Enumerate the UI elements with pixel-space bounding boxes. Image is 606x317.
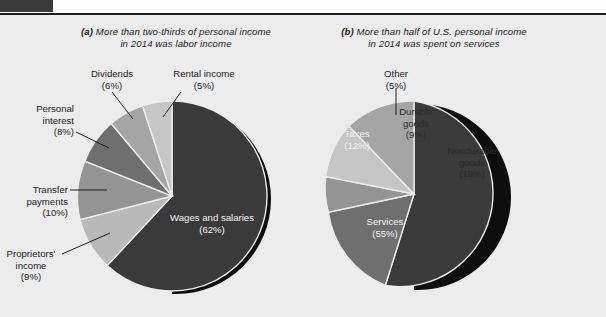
panel-b-title-line1: More than half of U.S. personal income xyxy=(357,26,527,37)
label-services[interactable]: Services (55%) xyxy=(340,216,430,239)
pie-a-slices xyxy=(77,101,266,291)
label-personal-interest-l2: interest xyxy=(0,115,74,127)
label-other-name: Other xyxy=(352,68,440,80)
panel-a-title-line2: in 2014 was labor income xyxy=(120,38,231,49)
panel-b-title-prefix: (b) xyxy=(341,26,354,37)
panel-b-title: (b) More than half of U.S. personal inco… xyxy=(316,26,552,50)
label-proprietors-income[interactable]: Proprietors' income (9%) xyxy=(0,248,62,283)
label-transfer-payments[interactable]: Transfer payments (10%) xyxy=(0,184,68,219)
label-wages-and-salaries[interactable]: Wages and salaries (62%) xyxy=(152,212,272,235)
label-taxes[interactable]: Taxes (12%) xyxy=(326,128,388,151)
panel-a-title-line1: More than two-thirds of personal income xyxy=(96,26,271,37)
panel-a-title: (a) More than two-thirds of personal inc… xyxy=(58,26,294,50)
label-proprietors-income-l2: income xyxy=(0,260,62,272)
label-durable-goods-l2: goods xyxy=(376,118,456,130)
label-wages-and-salaries-name: Wages and salaries xyxy=(152,212,272,224)
label-rental-income-pct: (5%) xyxy=(148,80,260,92)
label-transfer-payments-l2: payments xyxy=(0,196,68,208)
label-personal-interest-l1: Personal xyxy=(0,103,74,115)
label-durable-goods[interactable]: Durable goods (9%) xyxy=(376,106,456,141)
panel-b-title-line2: in 2014 was spent on services xyxy=(368,38,499,49)
label-durable-goods-pct: (9%) xyxy=(376,129,456,141)
label-other-pct: (5%) xyxy=(352,80,440,92)
label-personal-interest-pct: (8%) xyxy=(0,126,74,138)
label-other[interactable]: Other (5%) xyxy=(352,68,440,91)
label-nondurable-goods-l1: Nondurable xyxy=(418,145,526,157)
label-durable-goods-l1: Durable xyxy=(376,106,456,118)
label-wages-and-salaries-pct: (62%) xyxy=(152,224,272,236)
label-services-name: Services xyxy=(340,216,430,228)
label-proprietors-income-pct: (9%) xyxy=(0,271,62,283)
label-services-pct: (55%) xyxy=(340,228,430,240)
label-rental-income-name: Rental income xyxy=(148,68,260,80)
label-transfer-payments-l1: Transfer xyxy=(0,184,68,196)
label-taxes-pct: (12%) xyxy=(326,140,388,152)
label-nondurable-goods[interactable]: Nondurable goods (19%) xyxy=(418,145,526,180)
label-nondurable-goods-pct: (19%) xyxy=(418,168,526,180)
label-taxes-name: Taxes xyxy=(326,128,388,140)
panel-a-title-prefix: (a) xyxy=(81,26,93,37)
label-nondurable-goods-l2: goods xyxy=(418,157,526,169)
label-personal-interest[interactable]: Personal interest (8%) xyxy=(0,103,74,138)
label-proprietors-income-l1: Proprietors' xyxy=(0,248,62,260)
label-rental-income[interactable]: Rental income (5%) xyxy=(148,68,260,91)
label-transfer-payments-pct: (10%) xyxy=(0,207,68,219)
